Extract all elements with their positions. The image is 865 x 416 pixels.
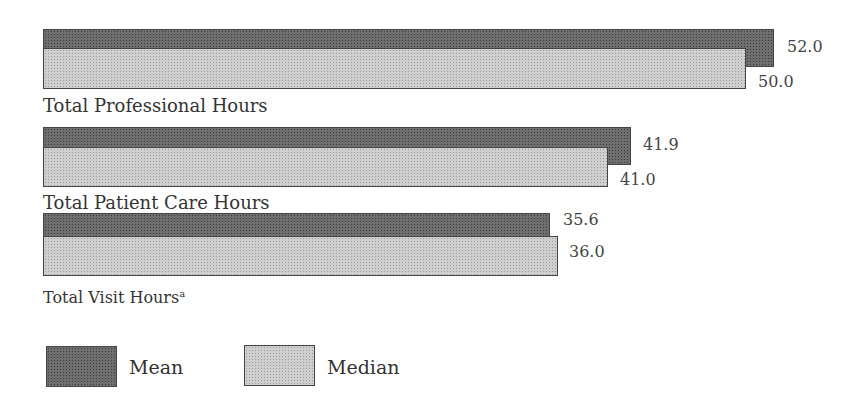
bar-mean-visit xyxy=(43,213,550,237)
value-label-mean-patient-care: 41.9 xyxy=(643,135,679,154)
category-label-professional: Total Professional Hours xyxy=(43,95,268,116)
legend-swatch-median xyxy=(244,345,315,386)
legend-swatch-mean xyxy=(46,346,117,387)
category-label-visit: Total Visit Hoursa xyxy=(43,288,185,307)
bar-median-professional xyxy=(43,48,746,89)
category-label-patient-care: Total Patient Care Hours xyxy=(43,192,270,213)
value-label-median-patient-care: 41.0 xyxy=(620,170,656,189)
footnote-marker: a xyxy=(179,288,185,299)
legend-label-median: Median xyxy=(327,356,400,378)
bar-median-patient-care xyxy=(43,147,608,187)
value-label-mean-visit: 35.6 xyxy=(563,210,599,229)
legend-label-mean: Mean xyxy=(129,356,183,378)
value-label-mean-professional: 52.0 xyxy=(787,37,823,56)
value-label-median-visit: 36.0 xyxy=(569,242,605,261)
value-label-median-professional: 50.0 xyxy=(758,72,794,91)
bar-median-visit xyxy=(43,236,558,276)
